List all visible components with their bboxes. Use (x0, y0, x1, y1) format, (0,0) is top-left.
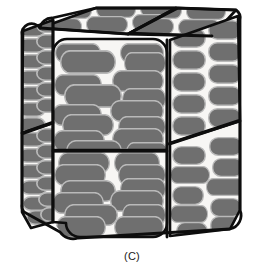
figure-root: (C) (0, 0, 264, 274)
three-dimensional-block-illustration (0, 0, 264, 250)
figure-caption: (C) (0, 249, 264, 263)
right-face (170, 16, 246, 240)
front-face-panel-upper (53, 39, 168, 163)
front-face-panel-lower-particles (53, 153, 166, 238)
front-face-panel-upper-particles (53, 44, 168, 164)
front-face-panel-lower (53, 151, 167, 237)
front-face (53, 39, 168, 237)
